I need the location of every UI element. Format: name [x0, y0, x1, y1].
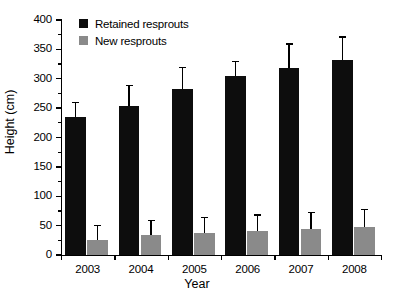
error-bar-cap-retained-2004	[126, 85, 133, 86]
error-bar-cap-retained-2006	[232, 61, 239, 62]
error-bar-stem-new-2007	[310, 213, 311, 229]
bar-new-2007	[301, 229, 322, 255]
plot-area	[61, 20, 381, 255]
error-bar-stem-retained-2003	[75, 103, 76, 117]
bar-retained-2008	[332, 60, 353, 255]
error-bar-stem-retained-2005	[182, 68, 183, 89]
bar-new-2006	[247, 231, 268, 255]
error-bar-stem-retained-2006	[235, 62, 236, 76]
y-tick-label: 100	[33, 191, 52, 203]
y-tick-label: 200	[33, 132, 52, 144]
x-tick-label-2004: 2004	[129, 263, 154, 275]
y-tick-label: 300	[33, 73, 52, 85]
error-bar-cap-retained-2005	[179, 67, 186, 68]
y-tick-label: 0	[46, 249, 52, 261]
y-tick-label: 150	[33, 161, 52, 173]
x-tick	[61, 255, 62, 260]
x-tick-label-2008: 2008	[342, 263, 367, 275]
legend-swatch-retained-icon	[79, 19, 88, 28]
y-tick-label: 50	[40, 220, 52, 232]
bar-new-2008	[354, 227, 375, 255]
error-bar-stem-new-2008	[364, 210, 365, 227]
bar-retained-2006	[225, 76, 246, 255]
error-bar-stem-new-2003	[97, 226, 98, 240]
bar-new-2005	[194, 233, 215, 255]
x-tick	[381, 255, 382, 260]
bar-retained-2005	[172, 89, 193, 255]
x-tick	[221, 255, 222, 260]
error-bar-cap-new-2007	[308, 212, 315, 213]
error-bar-cap-new-2006	[254, 214, 261, 215]
chart-legend: Retained resprouts New resprouts	[79, 16, 189, 50]
error-bar-cap-retained-2008	[339, 36, 346, 37]
error-bar-stem-retained-2007	[288, 45, 289, 69]
error-bar-cap-new-2008	[361, 209, 368, 210]
error-bar-stem-new-2005	[204, 218, 205, 233]
error-bar-cap-new-2004	[148, 220, 155, 221]
x-tick-label-2006: 2006	[235, 263, 260, 275]
error-bar-cap-new-2005	[201, 217, 208, 218]
bar-new-2004	[141, 235, 162, 255]
x-tick	[168, 255, 169, 260]
error-bar-stem-new-2006	[257, 216, 258, 231]
legend-item-retained-resprouts: Retained resprouts	[79, 16, 189, 31]
y-tick-label: 250	[33, 102, 52, 114]
legend-item-new-resprouts: New resprouts	[79, 33, 189, 48]
y-tick-label: 350	[33, 44, 52, 56]
legend-swatch-new-icon	[79, 36, 88, 45]
bar-chart-figure: 050100150200250300350400 Height (cm) 200…	[0, 0, 394, 297]
x-tick	[328, 255, 329, 260]
legend-label-retained: Retained resprouts	[95, 18, 189, 30]
bar-retained-2007	[279, 68, 300, 255]
bar-retained-2003	[65, 117, 86, 255]
error-bar-cap-retained-2003	[72, 102, 79, 103]
x-tick-label-2007: 2007	[289, 263, 314, 275]
x-tick	[274, 255, 275, 260]
x-tick-label-2005: 2005	[182, 263, 207, 275]
error-bar-stem-new-2004	[150, 221, 151, 235]
bar-new-2003	[87, 240, 108, 255]
error-bar-stem-retained-2008	[342, 38, 343, 60]
error-bar-cap-new-2003	[94, 225, 101, 226]
y-axis-title: Height (cm)	[3, 82, 17, 162]
x-axis-title: Year	[0, 277, 394, 291]
x-tick-label-2003: 2003	[75, 263, 100, 275]
error-bar-cap-retained-2007	[286, 43, 293, 44]
bar-retained-2004	[119, 106, 140, 255]
y-tick-label: 400	[33, 14, 52, 26]
legend-label-new: New resprouts	[95, 35, 167, 47]
x-tick	[114, 255, 115, 260]
error-bar-stem-retained-2004	[128, 86, 129, 107]
